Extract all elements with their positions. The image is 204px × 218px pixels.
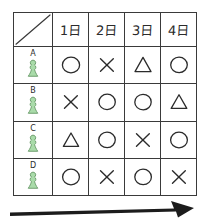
- cross-mark-icon: [131, 128, 155, 152]
- circle-mark-icon: [167, 53, 191, 77]
- table-row: A: [14, 47, 197, 84]
- triangle-mark-icon: [59, 128, 83, 152]
- table-row: B: [14, 84, 197, 121]
- cell-mark: [89, 121, 125, 158]
- column-header-day-2: 2日: [89, 13, 125, 47]
- column-header-label: 1日: [60, 24, 82, 37]
- pawn-icon: [25, 58, 41, 80]
- cell-mark: [89, 84, 125, 121]
- schedule-figure: 1日 2日 3日 4日 A: [0, 0, 204, 218]
- table-header-row: 1日 2日 3日 4日: [14, 13, 197, 47]
- cell-mark: [89, 158, 125, 195]
- circle-mark-icon: [95, 128, 119, 152]
- pawn-icon: [25, 133, 41, 155]
- timeline-arrow-container: [8, 196, 200, 218]
- table-row: C: [14, 121, 197, 158]
- cell-mark: [53, 47, 89, 84]
- circle-mark-icon: [131, 90, 155, 114]
- cell-mark: [53, 158, 89, 195]
- column-header-label: 2日: [96, 24, 118, 37]
- circle-mark-icon: [95, 90, 119, 114]
- column-header-label: 3日: [132, 24, 154, 37]
- pawn-icon: [25, 170, 41, 192]
- schedule-table-container: 1日 2日 3日 4日 A: [13, 12, 191, 196]
- cell-mark: [125, 84, 161, 121]
- cell-mark: [89, 47, 125, 84]
- person-letter: B: [30, 87, 36, 95]
- cross-mark-icon: [167, 165, 191, 189]
- column-header-label: 4日: [168, 24, 190, 37]
- table-row: D: [14, 158, 197, 195]
- cross-mark-icon: [95, 53, 119, 77]
- row-header-person-c: C: [14, 121, 53, 158]
- corner-diagonal-cell: [14, 13, 53, 47]
- circle-mark-icon: [167, 128, 191, 152]
- person-letter: C: [30, 125, 36, 133]
- cell-mark: [53, 121, 89, 158]
- person-letter: D: [30, 162, 36, 170]
- cell-mark: [125, 158, 161, 195]
- circle-mark-icon: [59, 165, 83, 189]
- cell-mark: [161, 84, 197, 121]
- cell-mark: [125, 47, 161, 84]
- row-header-person-a: A: [14, 47, 53, 84]
- triangle-mark-icon: [131, 53, 155, 77]
- pawn-icon: [25, 95, 41, 117]
- circle-mark-icon: [131, 165, 155, 189]
- cell-mark: [125, 121, 161, 158]
- cell-mark: [161, 47, 197, 84]
- column-header-day-3: 3日: [125, 13, 161, 47]
- right-arrow-icon: [8, 196, 200, 218]
- row-header-person-d: D: [14, 158, 53, 195]
- cross-mark-icon: [95, 165, 119, 189]
- cell-mark: [53, 84, 89, 121]
- row-header-person-b: B: [14, 84, 53, 121]
- cell-mark: [161, 158, 197, 195]
- schedule-table: 1日 2日 3日 4日 A: [13, 12, 197, 196]
- diagonal-slash-icon: [14, 13, 52, 46]
- column-header-day-1: 1日: [53, 13, 89, 47]
- cross-mark-icon: [59, 90, 83, 114]
- person-letter: A: [30, 50, 35, 58]
- cell-mark: [161, 121, 197, 158]
- column-header-day-4: 4日: [161, 13, 197, 47]
- triangle-mark-icon: [167, 90, 191, 114]
- circle-mark-icon: [59, 53, 83, 77]
